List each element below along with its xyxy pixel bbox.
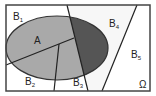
label-a: A (34, 35, 41, 46)
partition-diagram: B1 A B2 B3 B4 B5 Ω (0, 0, 156, 96)
label-omega: Ω (139, 79, 147, 90)
label-b2: B2 (25, 76, 36, 88)
label-b1: B1 (13, 11, 24, 23)
label-b5: B5 (131, 49, 142, 61)
label-b3: B3 (73, 77, 84, 89)
